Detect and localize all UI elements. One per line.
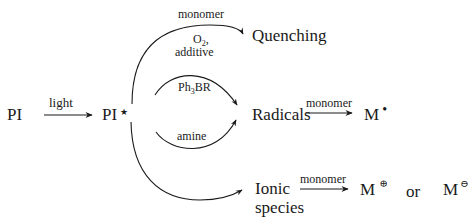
node-ionic-line2: species xyxy=(255,199,304,216)
edge-label-additive: additive xyxy=(175,46,214,58)
edge-label-light: light xyxy=(49,96,73,109)
edge-label-ph3br: Ph3BR xyxy=(178,81,211,96)
or-label: or xyxy=(406,183,420,200)
node-pi-excited: PI★ xyxy=(102,106,128,123)
radical-dot-icon: • xyxy=(382,102,387,117)
node-pi: PI xyxy=(7,106,22,123)
ph3br-ph: Ph xyxy=(178,80,191,94)
node-m-cation: M⊕ xyxy=(360,181,388,198)
o2-comma: , xyxy=(206,32,209,46)
cation-plus-icon: ⊕ xyxy=(379,178,387,189)
edge-label-amine: amine xyxy=(177,130,206,142)
excited-star-icon: ★ xyxy=(120,107,128,117)
ph3br-br: BR xyxy=(195,80,211,94)
m-anion-label: M xyxy=(443,180,458,199)
node-ionic-line1: Ionic xyxy=(255,180,290,197)
diagram-arrows xyxy=(0,0,474,220)
anion-minus-icon: ⊖ xyxy=(460,178,468,189)
node-quenching: Quenching xyxy=(252,27,327,44)
m-cation-label: M xyxy=(360,180,375,199)
edge-label-quench-monomer: monomer xyxy=(178,8,224,20)
node-m-radical: M• xyxy=(364,106,387,123)
edge-label-ionic-monomer: monomer xyxy=(300,173,346,185)
pi-excited-label: PI xyxy=(102,105,117,124)
node-m-anion: M⊖ xyxy=(443,181,469,198)
m-radical-label: M xyxy=(364,105,379,124)
o2-symbol: O xyxy=(193,32,202,46)
edge-label-radical-monomer: monomer xyxy=(306,97,352,109)
node-radicals: Radicals xyxy=(252,106,311,123)
